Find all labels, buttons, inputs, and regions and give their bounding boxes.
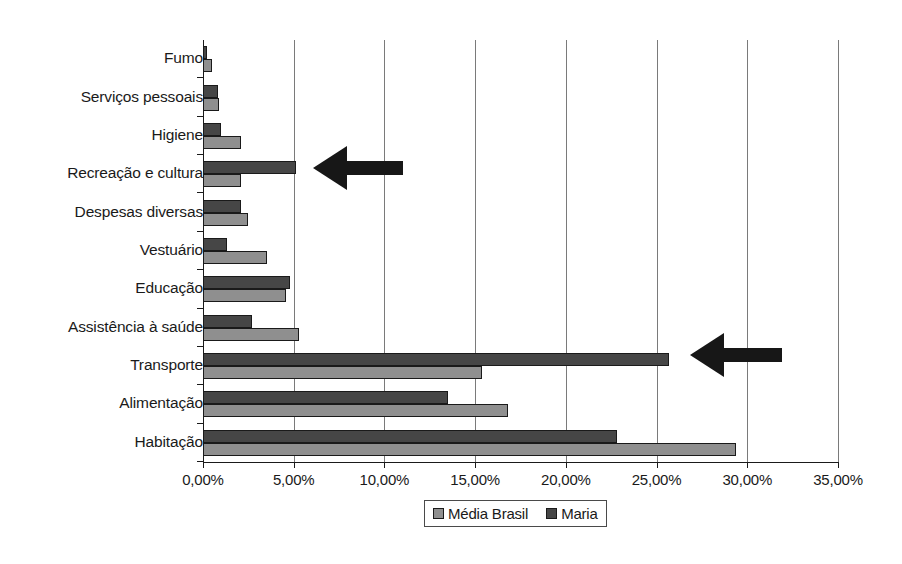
category-label-higiene: Higiene: [0, 126, 203, 144]
arrow-head-icon: [690, 333, 724, 377]
bar-maria: [203, 46, 207, 59]
x-axis-line: [203, 462, 838, 463]
bar-maria: [203, 430, 617, 443]
bar-row: Fumo: [0, 40, 902, 78]
bar-row: Serviços pessoais: [0, 78, 902, 116]
category-label-habitacao: Habitação: [0, 433, 203, 451]
bar-media-brasil: [203, 443, 736, 456]
chart-legend: Média Brasil Maria: [424, 500, 607, 527]
x-tick: [838, 462, 839, 468]
bar-maria: [203, 200, 241, 213]
category-label-alimentacao: Alimentação: [0, 394, 203, 412]
category-label-despesas-diversas: Despesas diversas: [0, 203, 203, 221]
legend-entry-maria: Maria: [546, 505, 598, 522]
bar-maria: [203, 238, 227, 251]
bar-media-brasil: [203, 213, 248, 226]
x-tick: [566, 462, 567, 468]
x-tick: [747, 462, 748, 468]
annotation-arrow-transporte: [690, 333, 782, 377]
bar-media-brasil: [203, 251, 267, 264]
x-tick-label: 30,00%: [722, 471, 772, 488]
x-tick-label: 5,00%: [273, 471, 315, 488]
x-tick-label: 35,00%: [813, 471, 863, 488]
category-label-servicos-pessoais: Serviços pessoais: [0, 88, 203, 106]
category-label-vestuario: Vestuário: [0, 241, 203, 259]
bar-maria: [203, 353, 669, 366]
x-tick-label: 25,00%: [632, 471, 682, 488]
legend-entry-media-brasil: Média Brasil: [433, 505, 528, 522]
arrow-head-icon: [313, 146, 347, 190]
x-tick: [657, 462, 658, 468]
x-tick: [294, 462, 295, 468]
x-tick-label: 15,00%: [450, 471, 500, 488]
bar-maria: [203, 391, 448, 404]
bar-media-brasil: [203, 366, 482, 379]
bar-row: Despesas diversas: [0, 193, 902, 231]
x-tick-label: 10,00%: [360, 471, 410, 488]
arrow-shaft: [345, 161, 403, 175]
bar-row: Habitação: [0, 424, 902, 462]
bar-row: Higiene: [0, 117, 902, 155]
bar-chart: 0,00%5,00%10,00%15,00%20,00%25,00%30,00%…: [0, 0, 902, 564]
category-label-recreacao-e-cultura: Recreação e cultura: [0, 164, 203, 182]
bar-maria: [203, 315, 252, 328]
bar-media-brasil: [203, 328, 299, 341]
bar-maria: [203, 85, 218, 98]
bar-maria: [203, 161, 296, 174]
x-tick: [475, 462, 476, 468]
bar-media-brasil: [203, 289, 286, 302]
legend-swatch-media-brasil: [433, 508, 444, 519]
legend-swatch-maria: [546, 508, 557, 519]
bar-row: Vestuário: [0, 232, 902, 270]
category-label-assistencia-a-saude: Assistência à saúde: [0, 318, 203, 336]
y-tick: [197, 461, 203, 462]
bar-media-brasil: [203, 98, 219, 111]
bar-media-brasil: [203, 404, 508, 417]
x-tick-label: 20,00%: [541, 471, 591, 488]
x-tick-label: 0,00%: [182, 471, 224, 488]
bar-maria: [203, 276, 290, 289]
arrow-shaft: [722, 348, 782, 362]
category-label-fumo: Fumo: [0, 49, 203, 67]
x-tick: [384, 462, 385, 468]
category-label-educacao: Educação: [0, 279, 203, 297]
bar-media-brasil: [203, 136, 241, 149]
bar-row: Alimentação: [0, 385, 902, 423]
annotation-arrow-recreacao: [313, 146, 403, 190]
bar-row: Educação: [0, 270, 902, 308]
x-tick: [203, 462, 204, 468]
bar-media-brasil: [203, 174, 241, 187]
bar-maria: [203, 123, 221, 136]
legend-label-maria: Maria: [561, 505, 598, 522]
bar-row: Recreação e cultura: [0, 155, 902, 193]
bar-media-brasil: [203, 59, 212, 72]
category-label-transporte: Transporte: [0, 356, 203, 374]
legend-label-media-brasil: Média Brasil: [448, 505, 528, 522]
